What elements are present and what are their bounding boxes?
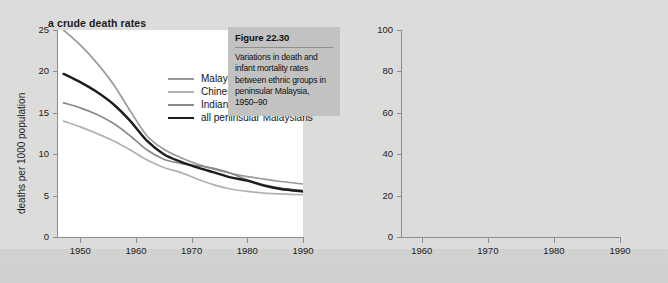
y-tick-mark: [397, 113, 402, 114]
legend-swatch-icon: [168, 117, 194, 119]
y-axis-line: [401, 30, 402, 238]
y-tick-label: 60: [362, 107, 393, 118]
figure-caption-number: Figure 22.30: [235, 32, 333, 43]
x-tick-label: 1970: [466, 245, 510, 256]
y-tick-mark: [53, 71, 58, 72]
legend-swatch-icon: [168, 78, 194, 80]
x-tick-label: 1990: [281, 245, 325, 256]
x-tick-mark: [247, 238, 248, 243]
y-tick-label: 0: [362, 231, 393, 242]
y-tick-label: 10: [18, 148, 49, 159]
y-tick-label: 80: [362, 65, 393, 76]
figure-caption-text: Variations in death and infant mortality…: [235, 52, 333, 109]
y-tick-label: 40: [362, 148, 393, 159]
y-tick-mark: [53, 154, 58, 155]
legend-swatch-icon: [168, 91, 194, 93]
y-tick-label: 5: [18, 190, 49, 201]
y-tick-mark: [53, 113, 58, 114]
y-axis-line: [57, 30, 58, 238]
x-tick-mark: [192, 238, 193, 243]
y-tick-mark: [397, 237, 402, 238]
x-tick-label: 1960: [400, 245, 444, 256]
y-tick-mark: [397, 71, 402, 72]
y-tick-label: 0: [18, 231, 49, 242]
x-axis-line: [57, 237, 304, 238]
y-tick-mark: [397, 196, 402, 197]
figure-caption-box: Figure 22.30 Variations in death and inf…: [228, 27, 340, 116]
y-tick-mark: [53, 196, 58, 197]
x-tick-label: 1960: [114, 245, 158, 256]
x-tick-mark: [422, 238, 423, 243]
figure-container: a crude death rates deaths per 1000 popu…: [0, 0, 668, 283]
y-tick-label: 20: [18, 65, 49, 76]
y-tick-label: 100: [362, 24, 393, 35]
x-axis-line: [401, 237, 621, 238]
y-tick-label: 25: [18, 24, 49, 35]
chart-panel-infant-mortality-rates: b infant mortality rates deaths per 1000…: [340, 0, 668, 283]
y-tick-mark: [397, 154, 402, 155]
y-tick-label: 15: [18, 107, 49, 118]
panel-a-title: a crude death rates: [48, 17, 146, 29]
y-tick-mark: [397, 30, 402, 31]
x-tick-mark: [620, 238, 621, 243]
caption-divider: [235, 47, 333, 48]
x-tick-mark: [554, 238, 555, 243]
x-tick-mark: [136, 238, 137, 243]
legend-swatch-icon: [168, 104, 194, 106]
y-tick-mark: [53, 237, 58, 238]
x-tick-mark: [488, 238, 489, 243]
x-tick-label: 1970: [170, 245, 214, 256]
y-tick-label: 20: [362, 190, 393, 201]
x-tick-label: 1980: [225, 245, 269, 256]
x-tick-label: 1950: [58, 245, 102, 256]
x-tick-mark: [80, 238, 81, 243]
x-tick-label: 1980: [532, 245, 576, 256]
y-tick-mark: [53, 30, 58, 31]
x-tick-mark: [303, 238, 304, 243]
x-tick-label: 1990: [598, 245, 642, 256]
